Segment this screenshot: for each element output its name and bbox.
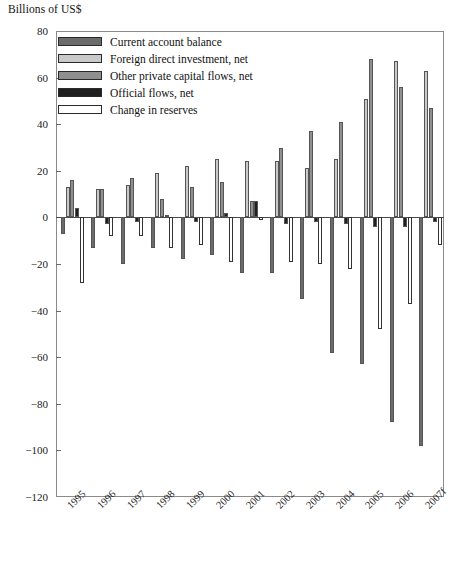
y-tick-label: −60 — [14, 351, 48, 363]
y-tick-label: 60 — [14, 72, 48, 84]
bar — [105, 217, 109, 224]
bar — [185, 166, 189, 217]
bar — [109, 217, 113, 236]
bar — [165, 215, 169, 217]
bar — [155, 173, 159, 217]
bar — [408, 217, 412, 303]
bar — [126, 185, 130, 218]
chart-legend: Current account balanceForeign direct in… — [58, 33, 293, 118]
bar — [215, 159, 219, 217]
bar — [139, 217, 143, 236]
y-tick-label: −20 — [14, 258, 48, 270]
bar — [344, 217, 348, 224]
bar — [210, 217, 214, 254]
bar — [240, 217, 244, 273]
bar — [160, 199, 164, 218]
bar — [330, 217, 334, 352]
legend-swatch — [58, 105, 102, 114]
legend-label: Foreign direct investment, net — [110, 53, 248, 65]
bar — [339, 122, 343, 218]
bar — [190, 187, 194, 217]
legend-swatch — [58, 71, 102, 80]
bar — [229, 217, 233, 261]
bar — [424, 71, 428, 218]
legend-swatch — [58, 37, 102, 46]
bar — [305, 168, 309, 217]
y-tick-label: 0 — [14, 211, 48, 223]
bar — [91, 217, 95, 247]
bar — [70, 180, 74, 217]
bar — [121, 217, 125, 264]
bar — [100, 189, 104, 217]
legend-label: Official flows, net — [110, 87, 194, 99]
bar — [270, 217, 274, 273]
y-tick-label: −100 — [14, 444, 48, 456]
bar — [429, 108, 433, 218]
bar — [61, 217, 65, 233]
bar — [348, 217, 352, 268]
bar — [279, 148, 283, 218]
bar — [438, 217, 442, 245]
bar — [334, 159, 338, 217]
bar — [224, 213, 228, 218]
legend-label: Change in reserves — [110, 104, 198, 116]
bar — [378, 217, 382, 329]
bar — [250, 201, 254, 217]
bar — [314, 217, 318, 222]
legend-item: Change in reserves — [58, 101, 293, 118]
bar — [169, 217, 173, 247]
bar — [300, 217, 304, 299]
bar — [254, 201, 258, 217]
chart-title: Billions of US$ — [8, 3, 82, 15]
bar — [75, 208, 79, 217]
bar — [96, 189, 100, 217]
legend-item: Foreign direct investment, net — [58, 50, 293, 67]
bar — [66, 187, 70, 217]
bar — [403, 217, 407, 226]
legend-swatch — [58, 88, 102, 97]
y-tick-label: −40 — [14, 305, 48, 317]
bar — [220, 182, 224, 217]
legend-swatch — [58, 54, 102, 63]
bar — [135, 217, 139, 222]
bar — [289, 217, 293, 261]
bar — [80, 217, 84, 282]
bar — [181, 217, 185, 259]
y-tick-label: 40 — [14, 118, 48, 130]
bar — [360, 217, 364, 364]
bar — [284, 217, 288, 224]
y-tick-label: 20 — [14, 165, 48, 177]
bar — [259, 217, 263, 219]
y-tick-label: −120 — [14, 491, 48, 503]
legend-label: Other private capital flows, net — [110, 70, 253, 82]
bar — [309, 131, 313, 217]
bar — [390, 217, 394, 422]
y-tick-label: −80 — [14, 398, 48, 410]
bar — [364, 99, 368, 218]
bar — [318, 217, 322, 264]
bar-chart: Billions of US$ 806040200−20−40−60−80−10… — [0, 0, 459, 569]
legend-item: Other private capital flows, net — [58, 67, 293, 84]
bar — [433, 217, 437, 222]
legend-item: Current account balance — [58, 33, 293, 50]
bar — [373, 217, 377, 226]
bar — [199, 217, 203, 245]
legend-label: Current account balance — [110, 36, 222, 48]
bar — [369, 59, 373, 217]
bar — [151, 217, 155, 247]
bar — [419, 217, 423, 445]
bar — [245, 161, 249, 217]
bar — [399, 87, 403, 217]
bar — [275, 161, 279, 217]
legend-item: Official flows, net — [58, 84, 293, 101]
y-tick-label: 80 — [14, 25, 48, 37]
bar — [194, 217, 198, 222]
bar — [394, 61, 398, 217]
bar — [130, 178, 134, 218]
